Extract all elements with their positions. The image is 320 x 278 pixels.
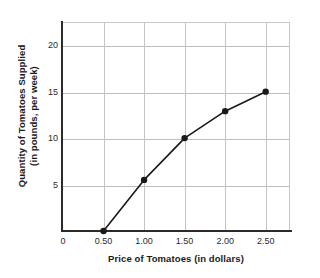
data-point-marker [100,228,106,234]
data-point-marker [141,177,147,183]
data-series-layer [0,0,320,278]
data-point-marker [222,108,228,114]
data-point-marker [181,135,187,141]
supply-curve-line [104,92,266,231]
chart-figure: Quantity of Tomatoes Supplied (in pounds… [0,0,320,278]
supply-curve-markers [100,88,269,234]
x-axis-title: Price of Tomatoes (in dollars) [56,253,296,264]
data-point-marker [262,88,268,94]
